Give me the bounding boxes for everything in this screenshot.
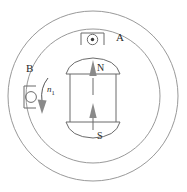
figure-container: A B N S n1: [0, 0, 187, 192]
conductor-a-label: A: [116, 32, 124, 43]
rotation-arrow-head-icon: [38, 100, 47, 115]
flux-arrow-lower-icon: [89, 103, 96, 118]
conductor-b-label: B: [26, 63, 33, 74]
dc-machine-diagram: [0, 0, 187, 192]
conductor-b-circle-icon: [26, 92, 37, 103]
rotation-speed-subscript: 1: [52, 89, 55, 96]
north-pole-label: N: [97, 63, 104, 73]
south-pole-label: S: [97, 131, 103, 141]
flux-arrow-upper-icon: [89, 60, 96, 76]
current-out-of-page-dot-icon: [91, 38, 94, 41]
rotation-speed-label: n1: [47, 85, 55, 96]
stator-outer-circle: [8, 11, 178, 181]
